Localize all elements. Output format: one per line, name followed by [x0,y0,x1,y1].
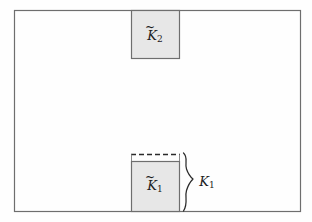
extent-brace [184,153,194,211]
brace-label-subscript: 1 [209,180,215,190]
k2-label-subscript: 2 [157,34,163,44]
figure-container: ~ K2 ~ K1 K1 [0,0,312,222]
geometric-diagram: ~ K2 ~ K1 K1 [0,0,312,222]
k1-label-subscript: 1 [157,184,163,194]
brace-label-k1: K1 [198,174,214,190]
